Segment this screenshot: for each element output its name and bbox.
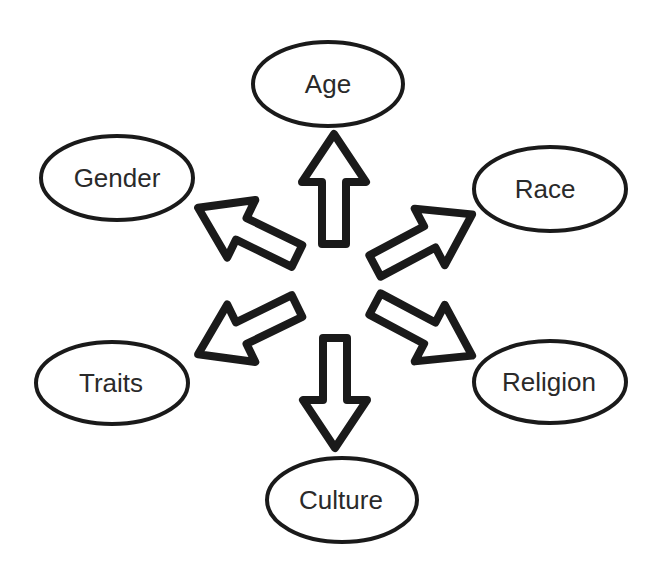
node-label-gender: Gender bbox=[74, 163, 161, 193]
arrow-lower-right-icon bbox=[360, 276, 487, 384]
arrow-down-icon bbox=[303, 338, 367, 448]
radial-diagram: Age Gender Race Traits Religion Culture bbox=[0, 0, 658, 573]
node-age: Age bbox=[253, 42, 403, 126]
node-label-race: Race bbox=[515, 174, 576, 204]
node-culture: Culture bbox=[267, 458, 417, 542]
node-label-culture: Culture bbox=[299, 485, 383, 515]
node-label-religion: Religion bbox=[502, 367, 596, 397]
node-gender: Gender bbox=[41, 136, 193, 220]
arrow-upper-left-icon bbox=[184, 179, 311, 285]
node-religion: Religion bbox=[474, 341, 626, 423]
node-label-age: Age bbox=[305, 69, 351, 99]
node-race: Race bbox=[474, 147, 626, 231]
arrow-upper-right-icon bbox=[360, 186, 487, 294]
node-label-traits: Traits bbox=[79, 368, 143, 398]
arrow-up-icon bbox=[302, 134, 366, 244]
node-traits: Traits bbox=[36, 342, 188, 424]
arrow-lower-left-icon bbox=[184, 277, 311, 383]
